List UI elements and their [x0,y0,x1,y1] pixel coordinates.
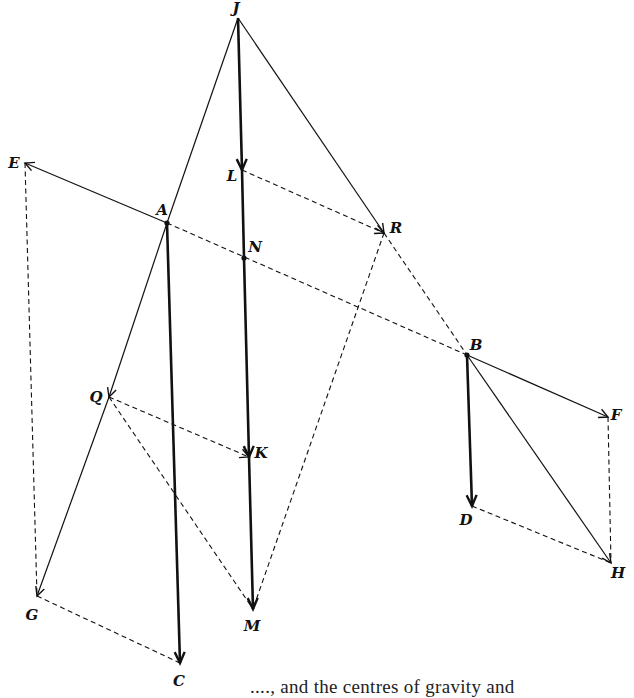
segment-EG [25,163,37,596]
segment-GC [37,596,180,663]
segment-NK [244,258,249,457]
point-label-J: J [232,1,239,16]
segment-DH [472,506,611,563]
point-dot-N [241,255,246,260]
segment-KM [249,457,253,609]
segment-JL [238,18,242,170]
point-label-M: M [244,619,261,634]
point-label-E: E [8,156,19,171]
point-label-K: K [254,446,267,461]
segment-BD [467,355,472,506]
segment-FH [608,417,611,563]
point-label-H: H [611,566,625,581]
point-label-Q: Q [89,390,102,405]
point-label-N: N [248,240,262,255]
segment-QG [37,397,109,596]
segment-AQ [109,223,167,397]
segment-QM [109,397,253,609]
segment-LN [242,170,244,258]
point-label-F: F [611,408,622,423]
point-dot-A [164,220,169,225]
point-label-B: B [470,338,483,353]
segment-JA [167,18,238,223]
segment-AE [25,163,167,223]
point-label-L: L [227,169,238,184]
caption-text: ...., and the centres of gravity and [250,676,515,698]
point-label-A: A [156,203,168,218]
segment-JR [238,18,384,233]
segment-AB [167,223,467,355]
point-label-C: C [173,674,185,689]
segments-layer [25,18,611,663]
point-label-R: R [390,221,402,236]
point-label-D: D [459,513,472,528]
point-label-G: G [26,608,39,623]
segment-AC [167,223,180,663]
